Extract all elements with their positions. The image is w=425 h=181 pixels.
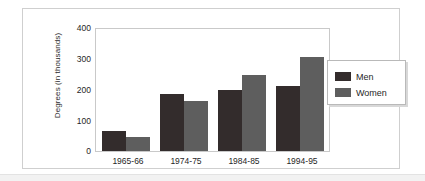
y-tick-label-200: 200 — [65, 86, 91, 95]
legend-label-women: Women — [356, 88, 387, 98]
men-color-swatch-icon — [335, 72, 351, 81]
bar-group-1974-75 — [160, 28, 212, 151]
x-tick-label-1984-85: 1984-85 — [215, 156, 273, 166]
bar-women-1994-95[interactable] — [300, 57, 324, 151]
y-tick-label-400: 400 — [65, 24, 91, 33]
bar-group-1984-85 — [218, 28, 270, 151]
legend-item-women[interactable]: Women — [335, 86, 387, 99]
x-tick-label-1965-66: 1965-66 — [99, 156, 157, 166]
legend-label-men: Men — [356, 72, 374, 82]
bar-men-1974-75[interactable] — [160, 94, 184, 151]
bar-women-1965-66[interactable] — [126, 137, 150, 151]
chart-page: Degrees (in thousands) 400 300 200 100 0 — [0, 0, 425, 181]
plot-area — [95, 28, 330, 152]
women-color-swatch-icon — [335, 88, 351, 97]
y-axis-tick-labels: 400 300 200 100 0 — [61, 9, 91, 181]
chart-legend: Men Women — [327, 60, 406, 105]
x-tick-label-1974-75: 1974-75 — [157, 156, 215, 166]
page-bottom-strip — [0, 174, 425, 181]
x-tick-label-1994-95: 1994-95 — [273, 156, 331, 166]
y-tick-label-300: 300 — [65, 55, 91, 64]
y-tick-label-0: 0 — [65, 147, 91, 156]
bar-men-1994-95[interactable] — [276, 86, 300, 151]
y-tick-label-100: 100 — [65, 117, 91, 126]
bar-men-1965-66[interactable] — [102, 131, 126, 151]
bar-men-1984-85[interactable] — [218, 90, 242, 151]
legend-item-men[interactable]: Men — [335, 70, 374, 83]
bar-group-1965-66 — [102, 28, 154, 151]
bar-women-1974-75[interactable] — [184, 101, 208, 151]
bar-women-1984-85[interactable] — [242, 75, 266, 151]
bar-group-1994-95 — [276, 28, 328, 151]
